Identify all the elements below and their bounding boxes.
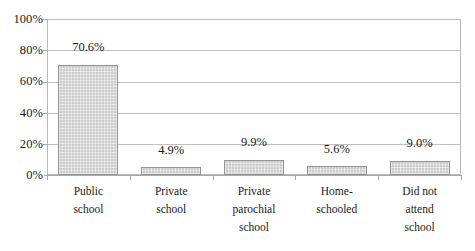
y-tick-label-0: 0% — [0, 169, 43, 182]
category-label-line: schooled — [295, 200, 378, 218]
bar-private-parochial-school[interactable] — [224, 160, 284, 175]
x-axis-line — [44, 175, 462, 176]
category-label-private-school: Private school — [130, 182, 213, 218]
bar-slot-public-school: 70.6% — [47, 19, 130, 175]
bar-public-school[interactable] — [58, 65, 118, 175]
y-tick-label-100: 100% — [0, 13, 43, 26]
category-label-private-parochial-school: Private parochial school — [213, 182, 296, 236]
y-axis-labels: 100% 80% 60% 40% 20% 0% — [0, 0, 43, 251]
bar-value-private-school: 4.9% — [158, 144, 184, 157]
category-label-line: school — [213, 218, 296, 236]
bar-value-home-schooled: 5.6% — [324, 143, 350, 156]
bar-slot-home-schooled: 5.6% — [295, 19, 378, 175]
x-axis-tick-4 — [378, 175, 379, 180]
x-axis-category-labels: Public school Private school Private par… — [47, 182, 461, 251]
x-axis-tick-3 — [295, 175, 296, 180]
bar-did-not-attend-school[interactable] — [390, 161, 450, 175]
bar-value-private-parochial-school: 9.9% — [241, 136, 267, 149]
category-label-line: Private — [213, 182, 296, 200]
y-tick-label-60: 60% — [0, 75, 43, 88]
bar-slot-private-school: 4.9% — [130, 19, 213, 175]
category-label-line: Home- — [295, 182, 378, 200]
x-axis-tick-0 — [47, 175, 48, 180]
bar-private-school[interactable] — [141, 167, 201, 175]
x-axis-tick-1 — [130, 175, 131, 180]
category-label-line: Public — [47, 182, 130, 200]
x-axis-tick-5 — [461, 175, 462, 180]
bar-chart: 100% 80% 60% 40% 20% 0% 70.6% 4.9% 9.9% — [0, 0, 475, 251]
y-tick-label-40: 40% — [0, 107, 43, 120]
bar-slot-private-parochial-school: 9.9% — [213, 19, 296, 175]
bars-layer: 70.6% 4.9% 9.9% 5.6% 9.0% — [47, 19, 461, 175]
bar-slot-did-not-attend-school: 9.0% — [378, 19, 461, 175]
category-label-line: Did not — [378, 182, 461, 200]
category-label-line: Private — [130, 182, 213, 200]
category-label-public-school: Public school — [47, 182, 130, 218]
category-label-line: attend — [378, 200, 461, 218]
category-label-home-schooled: Home- schooled — [295, 182, 378, 218]
category-label-line: school — [47, 200, 130, 218]
x-axis-tick-2 — [213, 175, 214, 180]
category-label-line: school — [378, 218, 461, 236]
category-label-line: school — [130, 200, 213, 218]
y-tick-label-20: 20% — [0, 138, 43, 151]
bar-value-did-not-attend-school: 9.0% — [407, 137, 433, 150]
category-label-did-not-attend-school: Did not attend school — [378, 182, 461, 236]
bar-home-schooled[interactable] — [307, 166, 367, 175]
y-tick-label-80: 80% — [0, 44, 43, 57]
bar-value-public-school: 70.6% — [72, 41, 104, 54]
category-label-line: parochial — [213, 200, 296, 218]
